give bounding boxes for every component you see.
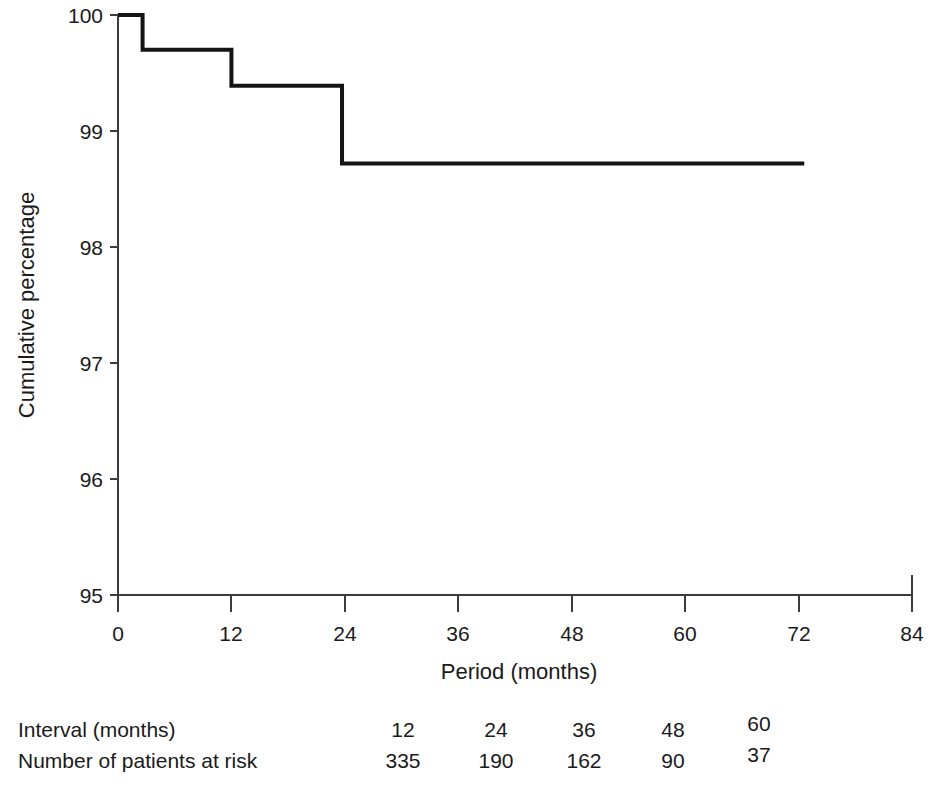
table-row: Interval (months) 12 24 36 48 60 <box>0 714 939 745</box>
risk-cell-count: 335 <box>385 745 420 776</box>
y-axis-tick-labels: 100 99 98 97 96 95 <box>68 4 103 607</box>
y-tick-label: 99 <box>80 120 103 143</box>
y-tick-label: 97 <box>80 352 103 375</box>
y-tick-label: 100 <box>68 4 103 27</box>
risk-cell-interval: 12 <box>391 714 414 745</box>
km-chart-svg: 100 99 98 97 96 95 0 12 <box>0 0 939 700</box>
axis-frame <box>118 15 912 595</box>
x-axis-tick-labels: 0 12 24 36 48 60 72 84 <box>112 622 924 645</box>
risk-row-label: Number of patients at risk <box>18 745 257 776</box>
y-axis-ticks <box>110 15 118 595</box>
risk-cell-interval: 48 <box>661 714 684 745</box>
y-tick-label: 95 <box>80 584 103 607</box>
risk-cell-interval: 60 <box>747 708 770 739</box>
y-axis-title: Cumulative percentage <box>14 192 39 418</box>
x-axis-title: Period (months) <box>441 659 598 684</box>
risk-cell-count: 162 <box>566 745 601 776</box>
survival-step-curve <box>118 15 804 163</box>
risk-cell-interval: 36 <box>572 714 595 745</box>
numbers-at-risk-table: Interval (months) 12 24 36 48 60 Number … <box>0 714 939 802</box>
x-tick-label: 12 <box>219 622 242 645</box>
x-tick-label: 60 <box>673 622 696 645</box>
x-tick-label: 36 <box>446 622 469 645</box>
x-tick-label: 84 <box>900 622 924 645</box>
x-tick-label: 48 <box>560 622 583 645</box>
x-tick-label: 0 <box>112 622 124 645</box>
risk-cell-count: 90 <box>661 745 684 776</box>
risk-cell-count: 37 <box>747 739 770 770</box>
x-axis-ticks <box>118 575 912 612</box>
risk-row-label: Interval (months) <box>18 714 176 745</box>
y-tick-label: 98 <box>80 236 103 259</box>
risk-cell-interval: 24 <box>484 714 507 745</box>
plot-area: 100 99 98 97 96 95 0 12 <box>0 0 939 700</box>
x-tick-label: 72 <box>787 622 810 645</box>
kaplan-meier-figure: 100 99 98 97 96 95 0 12 <box>0 0 939 802</box>
risk-cell-count: 190 <box>478 745 513 776</box>
y-tick-label: 96 <box>80 468 103 491</box>
table-row: Number of patients at risk 335 190 162 9… <box>0 745 939 776</box>
x-tick-label: 24 <box>333 622 357 645</box>
